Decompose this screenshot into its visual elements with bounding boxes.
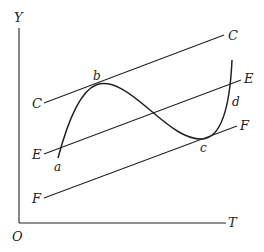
line-c-left-label: C xyxy=(32,96,42,111)
y-axis-label: Y xyxy=(14,10,24,25)
line-f xyxy=(44,126,237,198)
line-f-right-label: F xyxy=(239,118,250,133)
t-axis-label: T xyxy=(228,215,238,230)
line-e xyxy=(44,80,241,154)
line-e-left-label: E xyxy=(31,147,42,162)
point-c-label: c xyxy=(200,141,207,155)
point-b-label: b xyxy=(93,69,101,83)
point-a-label: a xyxy=(54,160,61,174)
line-c-right-label: C xyxy=(228,28,238,43)
origin-label: O xyxy=(12,229,23,244)
trend-channel-diagram: Y T O C C E E F F a b c d xyxy=(0,0,264,252)
line-c xyxy=(44,35,224,103)
line-f-left-label: F xyxy=(31,191,42,206)
point-d-label: d xyxy=(232,95,240,109)
line-e-right-label: E xyxy=(243,71,254,86)
